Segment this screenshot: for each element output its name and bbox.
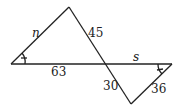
angle-tick-right — [157, 69, 163, 70]
label-n: n — [32, 26, 40, 40]
label-s: s — [133, 50, 139, 64]
side-n — [11, 7, 69, 64]
label-36: 36 — [151, 82, 166, 96]
label-45: 45 — [88, 26, 103, 40]
transversal-45-30 — [69, 7, 131, 104]
label-63: 63 — [51, 65, 66, 79]
label-30: 30 — [103, 79, 118, 93]
diagram-canvas: n 45 63 s 30 36 — [0, 0, 179, 111]
